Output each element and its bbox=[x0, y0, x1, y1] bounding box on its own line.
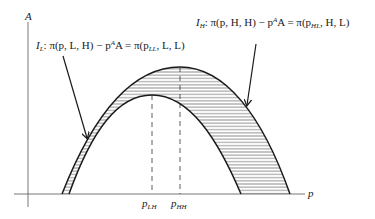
curve-label-i-l: IL: π(p, L, H) − pAA = π(pLL, L, L) bbox=[36, 40, 185, 53]
arrow-i-l bbox=[63, 56, 87, 138]
y-axis-label: A bbox=[25, 11, 32, 22]
arrow-i-h bbox=[247, 44, 256, 105]
x-axis-label: p bbox=[308, 188, 314, 199]
hatched-region bbox=[62, 67, 290, 194]
curve-label-i-h: IH: π(p, H, H) − pAA = π(pHL, H, L) bbox=[196, 17, 349, 30]
indifference-curve-diagram bbox=[0, 0, 375, 219]
tick-label-p-hh: pHH bbox=[171, 198, 187, 211]
tick-label-p-lh: pLH bbox=[142, 198, 156, 211]
